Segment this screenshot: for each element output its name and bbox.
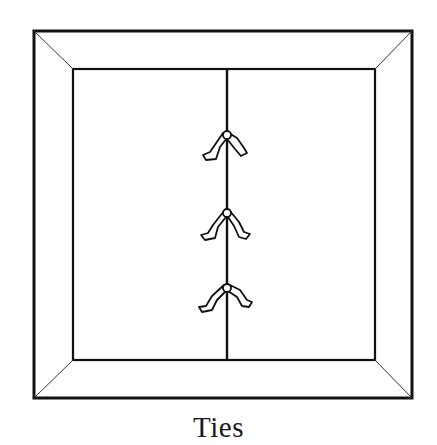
miter-bottom-right [375,360,412,398]
miter-top-left [34,31,73,69]
miter-top-right [375,31,412,69]
tie-tail-left [199,285,226,312]
tie-tail-left [201,211,226,240]
tie-2 [201,209,250,240]
miter-bottom-left [34,360,73,398]
ties-diagram [0,0,437,445]
figure-caption: Ties [0,411,437,444]
tie-knot [223,131,231,139]
tie-knot [223,284,231,292]
tie-1 [203,131,247,160]
tie-3 [199,284,252,312]
tie-knot [223,209,231,217]
